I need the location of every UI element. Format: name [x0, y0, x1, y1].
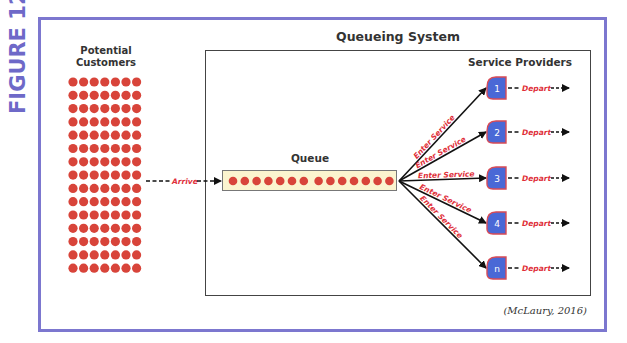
customer-dot: [111, 250, 120, 259]
customer-dot: [79, 224, 88, 233]
customer-dot: [68, 144, 77, 153]
customer-dot: [90, 210, 99, 219]
customer-dot: [68, 91, 77, 100]
customer-dot: [121, 157, 130, 166]
customer-dot: [68, 250, 77, 259]
customer-dot: [79, 91, 88, 100]
customer-dot: [111, 197, 120, 206]
service-provider-number: 1: [494, 84, 500, 94]
customer-dot: [68, 77, 77, 86]
customer-dot: [132, 264, 141, 273]
customer-dot: [100, 237, 109, 246]
depart-label-4: Depart: [522, 219, 551, 228]
customer-dot: [79, 117, 88, 126]
customer-dot: [111, 210, 120, 219]
customer-dot: [100, 264, 109, 273]
depart-label-1: Depart: [522, 84, 551, 93]
customer-dot: [68, 171, 77, 180]
customer-dot: [100, 250, 109, 259]
queue-dots: [229, 177, 394, 186]
customer-dot: [111, 91, 120, 100]
customer-dot: [90, 250, 99, 259]
customer-dot: [121, 184, 130, 193]
customer-dot: [100, 104, 109, 113]
customer-dot: [111, 237, 120, 246]
customer-dot: [79, 250, 88, 259]
queue-customer-dot: [300, 177, 309, 186]
queue-customer-dot: [326, 177, 335, 186]
customer-dot: [68, 117, 77, 126]
service-provider-number: 3: [494, 174, 500, 184]
customer-dot: [100, 210, 109, 219]
customer-dot: [90, 131, 99, 140]
customer-dot: [100, 157, 109, 166]
customer-dot: [121, 237, 130, 246]
customer-dot: [68, 131, 77, 140]
arrive-arrow: Arrive: [146, 177, 221, 186]
customer-dot: [68, 224, 77, 233]
arrive-label: Arrive: [171, 177, 198, 186]
customer-dot: [132, 210, 141, 219]
customer-dot: [79, 184, 88, 193]
customer-dot-grid: [68, 77, 141, 272]
customer-dot: [90, 224, 99, 233]
customer-dot: [100, 171, 109, 180]
queue-customer-dot: [385, 177, 394, 186]
queue-customer-dot: [373, 177, 382, 186]
customer-dot: [132, 197, 141, 206]
customer-dot: [100, 224, 109, 233]
customer-dot: [68, 210, 77, 219]
customer-dot: [111, 157, 120, 166]
customer-dot: [132, 171, 141, 180]
customer-dot: [132, 91, 141, 100]
customer-dot: [111, 224, 120, 233]
service-provider-number: 2: [494, 128, 500, 138]
customer-dot: [100, 91, 109, 100]
queue-customer-dot: [314, 177, 323, 186]
customer-dot: [121, 131, 130, 140]
customer-dot: [100, 184, 109, 193]
customer-dot: [79, 131, 88, 140]
customer-dot: [79, 77, 88, 86]
customer-dot: [79, 171, 88, 180]
queue-customer-dot: [252, 177, 261, 186]
customer-dot: [68, 264, 77, 273]
enter-service-arrows: Enter ServiceEnter ServiceEnter ServiceE…: [399, 88, 486, 268]
depart-label-2: Depart: [522, 128, 551, 137]
queue-customer-dot: [229, 177, 238, 186]
customer-dot: [121, 117, 130, 126]
queue-customer-dot: [350, 177, 359, 186]
customer-dot: [111, 77, 120, 86]
customer-dot: [79, 157, 88, 166]
customer-dot: [111, 117, 120, 126]
queue-customer-dot: [241, 177, 250, 186]
customer-dot: [121, 264, 130, 273]
queue-customer-dot: [338, 177, 347, 186]
customer-dot: [121, 77, 130, 86]
customer-dot: [79, 210, 88, 219]
customer-dot: [79, 237, 88, 246]
customer-dot: [121, 171, 130, 180]
queue-customer-dot: [288, 177, 297, 186]
customer-dot: [132, 237, 141, 246]
customer-dot: [79, 144, 88, 153]
service-provider-number: 4: [494, 219, 500, 229]
customer-dot: [132, 117, 141, 126]
queue-customer-dot: [276, 177, 285, 186]
customer-dot: [132, 131, 141, 140]
customer-dot: [111, 131, 120, 140]
customer-dot: [100, 117, 109, 126]
citation: (McLaury, 2016): [503, 305, 587, 316]
queue-customer-dot: [362, 177, 371, 186]
depart-label-3: Depart: [522, 174, 551, 183]
customer-dot: [79, 104, 88, 113]
customer-dot: [121, 91, 130, 100]
customer-dot: [132, 144, 141, 153]
customer-dot: [90, 197, 99, 206]
customer-dot: [132, 77, 141, 86]
service-provider-number: n: [494, 264, 500, 274]
customer-dot: [121, 224, 130, 233]
queue-customer-dot: [264, 177, 273, 186]
customer-dot: [132, 184, 141, 193]
customer-dot: [68, 104, 77, 113]
